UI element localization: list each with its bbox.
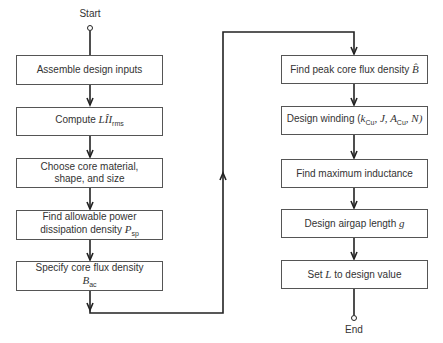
step-text-line2: Bac bbox=[82, 274, 96, 291]
step-text: Compute LÎIrms bbox=[55, 113, 123, 130]
step-max-inductance: Find maximum inductance bbox=[281, 159, 428, 188]
end-label: End bbox=[345, 324, 363, 335]
step-choose-core: Choose core material, shape, and size bbox=[16, 158, 163, 188]
step-text-line1: Find allowable power bbox=[43, 211, 137, 223]
step-text-line1: Specify core flux density bbox=[36, 262, 144, 274]
step-power-dissipation: Find allowable power dissipation density… bbox=[16, 210, 163, 240]
step-text: Design winding (kCu, J, ACu, N) bbox=[287, 112, 423, 129]
step-text: Set L to design value bbox=[308, 268, 402, 281]
step-text-line2: shape, and size bbox=[54, 173, 124, 185]
step-text-line1: Choose core material, bbox=[41, 161, 139, 173]
step-airgap-length: Design airgap length g bbox=[281, 209, 428, 238]
step-text: Find maximum inductance bbox=[296, 168, 413, 180]
step-compute-lii: Compute LÎIrms bbox=[16, 107, 163, 136]
step-peak-flux: Find peak core flux density B̂ bbox=[281, 55, 428, 84]
step-set-l: Set L to design value bbox=[281, 260, 428, 289]
start-label: Start bbox=[79, 8, 100, 19]
step-text: Design airgap length g bbox=[304, 217, 404, 230]
step-assemble-inputs: Assemble design inputs bbox=[16, 55, 163, 85]
step-text-line2: dissipation density Psp bbox=[40, 223, 139, 240]
step-specify-bac: Specify core flux density Bac bbox=[16, 261, 163, 291]
step-text: Find peak core flux density B̂ bbox=[290, 63, 418, 76]
step-text: Assemble design inputs bbox=[37, 64, 143, 76]
step-design-winding: Design winding (kCu, J, ACu, N) bbox=[281, 106, 428, 135]
